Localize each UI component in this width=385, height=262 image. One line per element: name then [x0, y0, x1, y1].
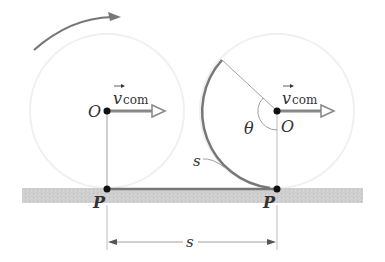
velocity-label-left: v com — [113, 84, 149, 108]
contact-point-right — [274, 186, 281, 193]
label-center-right: O — [281, 117, 294, 136]
center-point-right — [274, 108, 281, 115]
rolling-wheel-diagram: O O P P v com v com θ s s — [0, 0, 385, 262]
contact-point-left — [104, 186, 111, 193]
angle-theta-arc — [258, 98, 277, 130]
rotation-arrow-icon — [34, 12, 121, 50]
dimension-arrowhead-left-icon — [108, 239, 117, 245]
label-distance-s: s — [186, 233, 194, 251]
center-point-left — [104, 108, 111, 115]
label-contact-right: P — [262, 193, 276, 212]
svg-text:v: v — [282, 89, 291, 108]
label-contact-left: P — [92, 193, 106, 212]
svg-text:com: com — [292, 93, 318, 107]
arc-length-s — [202, 60, 270, 188]
label-angle-theta: θ — [244, 119, 254, 138]
label-arc-s: s — [193, 152, 201, 170]
velocity-label-right: v com — [282, 84, 318, 108]
radius-line-rotated — [222, 60, 277, 111]
svg-text:v: v — [113, 89, 122, 108]
svg-text:com: com — [123, 93, 149, 107]
dimension-arrowhead-right-icon — [267, 239, 276, 245]
label-center-left: O — [88, 102, 101, 121]
